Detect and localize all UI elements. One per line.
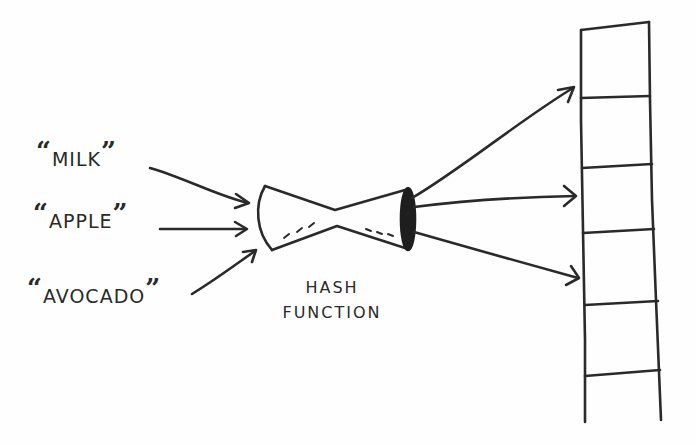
array-slot-divider — [585, 370, 660, 376]
hash-function-funnel-icon — [258, 186, 415, 250]
input-key-text: AVOCADO — [43, 285, 145, 307]
hash-function-caption-line1: HASH — [262, 278, 402, 297]
array-slot-divider — [581, 96, 650, 98]
array-slot-divider — [582, 164, 652, 168]
open-quote: “ — [33, 198, 49, 228]
input-arrow-milk — [150, 168, 249, 208]
array-table — [581, 22, 661, 422]
open-quote: “ — [27, 273, 43, 303]
input-arrow-avocado — [192, 250, 256, 294]
input-key-apple: “APPLE” — [33, 206, 128, 232]
array-slot-divider — [585, 301, 658, 305]
close-quote: ” — [145, 273, 161, 303]
output-arrow-bottom — [414, 232, 579, 285]
hash-function-diagram: “MILK” “APPLE” “AVOCADO” HASH FUNCTION — [0, 0, 696, 446]
close-quote: ” — [101, 136, 117, 166]
input-key-text: APPLE — [49, 210, 113, 232]
output-arrow-middle — [414, 186, 576, 207]
input-key-milk: “MILK” — [36, 144, 117, 170]
hash-function-caption: HASH FUNCTION — [262, 278, 402, 322]
array-slot-divider — [583, 229, 654, 233]
input-arrow-apple — [160, 222, 247, 236]
input-key-avocado: “AVOCADO” — [27, 281, 161, 307]
output-arrow-top — [412, 87, 574, 198]
close-quote: ” — [112, 198, 128, 228]
input-key-text: MILK — [52, 148, 101, 170]
hash-function-caption-line2: FUNCTION — [262, 303, 402, 322]
open-quote: “ — [36, 136, 52, 166]
